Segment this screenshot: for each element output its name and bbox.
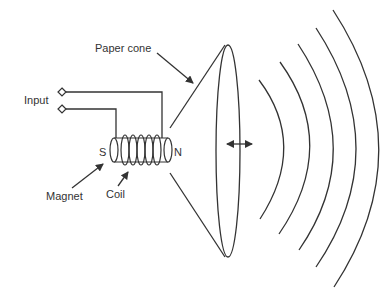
south-pole-label: S [99,146,106,158]
loudspeaker-diagram: S N Paper cone Input Magnet Coil [0,0,385,302]
coil [121,135,161,165]
sound-wave-1 [259,80,284,219]
paper-cone-label: Paper cone [95,42,151,54]
north-pole-label: N [174,146,182,158]
coil-label: Coil [106,188,125,200]
magnet-label: Magnet [46,190,83,202]
terminal-diamond-icon [58,105,66,113]
paper-cone-arrow-icon [157,53,193,83]
magnet-arrow-icon [72,164,103,188]
sound-wave-4 [316,28,356,267]
coil-arrow-icon [118,172,128,186]
terminal-diamond-icon [58,88,66,96]
input-wires [66,92,162,138]
input-label: Input [24,94,48,106]
magnet [110,138,172,162]
input-terminals [58,88,66,113]
sound-wave-3 [298,44,333,250]
sound-waves [259,10,379,287]
